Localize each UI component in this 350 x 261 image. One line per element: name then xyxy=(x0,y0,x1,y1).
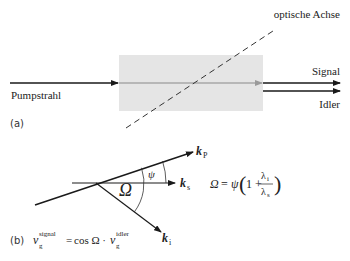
svg-text:=: = xyxy=(66,234,72,246)
panel-b-label: (b) xyxy=(10,235,24,246)
svg-text:s: s xyxy=(267,191,270,199)
idler-label: Idler xyxy=(319,98,340,110)
svg-text:i: i xyxy=(267,175,269,183)
psi-angle-arc xyxy=(163,161,167,183)
svg-text:g: g xyxy=(116,242,120,250)
svg-text:Ω: Ω xyxy=(210,177,219,191)
svg-text:): ) xyxy=(274,171,281,196)
pump-label: Pumpstrahl xyxy=(11,89,61,101)
svg-text:=: = xyxy=(221,177,228,191)
group-velocity-formula: (b) v signal g = cos Ω · v idler g xyxy=(10,230,129,250)
svg-text:k: k xyxy=(180,176,186,190)
svg-text:k: k xyxy=(162,231,168,245)
panel-b: ψ Ω k P k s k i Ω = ψ ( 1 + λ i λ s ) xyxy=(10,144,281,250)
svg-text:k: k xyxy=(196,144,202,158)
svg-text:idler: idler xyxy=(116,230,129,238)
svg-text:g: g xyxy=(39,242,43,250)
svg-text:cos Ω ·: cos Ω · xyxy=(74,234,106,246)
diagram-canvas: Pumpstrahl Signal Idler optische Achse (… xyxy=(0,0,350,261)
svg-text:signal: signal xyxy=(39,230,56,238)
omega-angle-arc xyxy=(134,168,144,212)
svg-text:s: s xyxy=(187,183,190,192)
kp-label: k P xyxy=(196,144,208,160)
optical-axis-label: optische Achse xyxy=(274,8,340,20)
svg-text:ψ: ψ xyxy=(231,177,239,191)
svg-text:λ: λ xyxy=(261,170,266,181)
ks-label: k s xyxy=(180,176,190,192)
panel-a-label: (a) xyxy=(10,118,24,129)
svg-text:λ: λ xyxy=(261,186,266,197)
omega-formula: Ω = ψ ( 1 + λ i λ s ) xyxy=(210,170,281,199)
svg-text:P: P xyxy=(203,151,208,160)
omega-label: Ω xyxy=(119,180,132,200)
panel-a: Pumpstrahl Signal Idler optische Achse (… xyxy=(10,8,340,129)
svg-text:i: i xyxy=(169,238,172,247)
signal-label: Signal xyxy=(312,65,340,77)
psi-label: ψ xyxy=(148,168,155,180)
ki-label: k i xyxy=(162,231,172,247)
